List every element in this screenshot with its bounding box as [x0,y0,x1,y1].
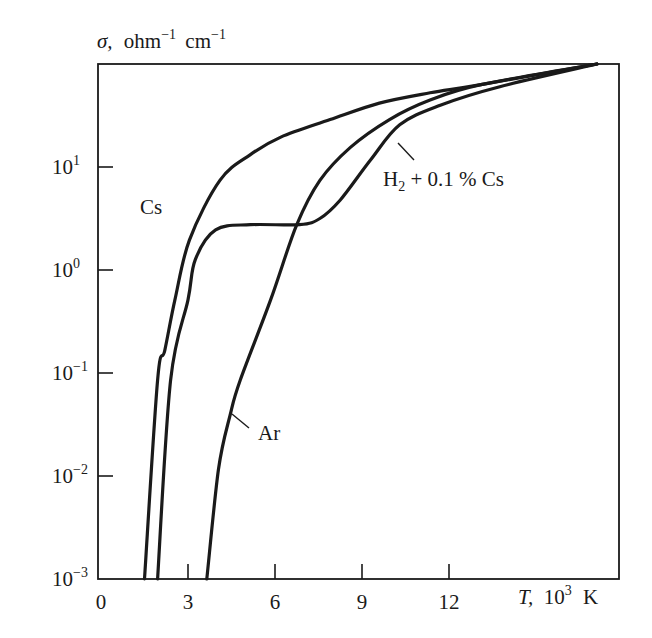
x-tick-label: 12 [439,590,460,614]
label-ar: Ar [258,421,280,445]
y-axis-ticks [98,167,113,476]
x-tick-label: 3 [183,590,194,614]
x-axis-ticks [188,564,449,579]
y-tick-label: 10−3 [52,565,88,591]
y-tick-label: 10−1 [52,359,88,385]
x-axis-title: T, 103 K [518,576,598,609]
y-axis-title: σ, ohm−1 cm−1 [97,20,226,53]
conductivity-chart: σ, ohm−1 cm−1 036912 10−310−210−1100101 … [0,0,652,638]
label-cs: Cs [140,195,162,219]
x-tick-label: 6 [270,590,281,614]
curve-ar [207,64,597,579]
label-h2-cs: H2 + 0.1 % Cs [383,167,504,194]
x-tick-label: 9 [357,590,368,614]
y-tick-labels: 10−310−210−1100101 [52,153,88,591]
x-tick-label: 0 [96,590,107,614]
x-tick-labels: 036912 [96,590,460,614]
y-tick-label: 100 [52,256,80,282]
leader-h2-cs [398,143,414,160]
series-curves [145,64,597,579]
leader-ar [232,414,249,428]
y-tick-label: 101 [52,153,80,179]
curve-h2-0-1-cs [158,64,597,579]
y-tick-label: 10−2 [52,462,88,488]
curve-cs [145,64,597,579]
